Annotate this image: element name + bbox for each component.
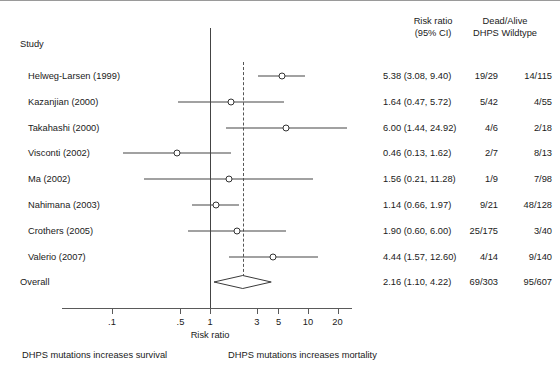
footnote-left: DHPS mutations increases survival xyxy=(22,350,167,360)
x-axis-tick xyxy=(257,309,258,314)
point-estimate-marker xyxy=(225,176,232,183)
x-axis-tick-label: .5 xyxy=(177,317,185,327)
point-estimate-marker xyxy=(228,98,235,105)
row-events-wildtype: 14/115 xyxy=(502,71,552,81)
point-estimate-marker xyxy=(212,202,219,209)
row-events-dhps: 2/7 xyxy=(452,148,498,158)
x-axis-tick xyxy=(308,309,309,314)
x-axis-tick xyxy=(278,309,279,314)
footnote-right: DHPS mutations increases mortality xyxy=(228,350,377,360)
row-label-study: Valerio (2007) xyxy=(28,252,86,262)
row-label-study: Ma (2002) xyxy=(28,174,70,184)
point-estimate-marker xyxy=(173,150,180,157)
x-axis-tick-label: .1 xyxy=(108,317,116,327)
x-axis-tick xyxy=(210,309,211,314)
forest-plot: Risk ratio (95% CI) Dead/Alive DHPS Wild… xyxy=(0,0,560,371)
row-label-study: Nahimana (2003) xyxy=(28,200,100,210)
row-events-wildtype: 8/13 xyxy=(502,148,552,158)
null-effect-line xyxy=(210,28,211,308)
row-events-wildtype: 4/55 xyxy=(502,97,552,107)
row-events-wildtype: 3/40 xyxy=(502,226,552,236)
row-events-dhps: 19/29 xyxy=(452,71,498,81)
column-header-counts-line1: Dead/Alive xyxy=(455,16,555,28)
row-label-study: Takahashi (2000) xyxy=(28,123,99,133)
x-axis-tick-label: 1 xyxy=(207,317,212,327)
point-estimate-marker xyxy=(270,253,277,260)
x-axis-tick-label: 20 xyxy=(332,317,342,327)
x-axis-tick xyxy=(112,309,113,314)
x-axis-tick xyxy=(180,309,181,314)
row-label-overall: Overall xyxy=(20,277,49,287)
point-estimate-marker xyxy=(283,124,290,131)
summary-effect-dashed-line xyxy=(243,62,244,282)
row-events-wildtype: 48/128 xyxy=(502,200,552,210)
column-header-counts-line2: DHPS Wildtype xyxy=(455,28,555,40)
row-events-dhps: 25/175 xyxy=(452,226,498,236)
row-events-wildtype: 7/98 xyxy=(502,174,552,184)
column-header-counts: Dead/Alive DHPS Wildtype xyxy=(455,16,555,39)
row-events-dhps: 4/6 xyxy=(452,123,498,133)
point-estimate-marker xyxy=(234,227,241,234)
overall-diamond xyxy=(213,275,272,290)
row-events-wildtype: 2/18 xyxy=(502,123,552,133)
row-events-wildtype: 95/607 xyxy=(502,277,552,287)
x-axis-tick xyxy=(338,309,339,314)
x-axis-tick-label: 10 xyxy=(303,317,313,327)
top-rule xyxy=(0,0,560,1)
row-events-dhps: 69/303 xyxy=(452,277,498,287)
row-events-dhps: 9/21 xyxy=(452,200,498,210)
row-label-study: Helweg-Larsen (1999) xyxy=(28,71,120,81)
point-estimate-marker xyxy=(278,73,285,80)
row-events-wildtype: 9/140 xyxy=(502,252,552,262)
x-axis-tick-label: 5 xyxy=(276,317,281,327)
row-events-dhps: 1/9 xyxy=(452,174,498,184)
column-header-study: Study xyxy=(20,39,44,49)
row-label-study: Kazanjian (2000) xyxy=(28,97,98,107)
x-axis-tick-label: 3 xyxy=(254,317,259,327)
row-events-dhps: 4/14 xyxy=(452,252,498,262)
row-events-dhps: 5/42 xyxy=(452,97,498,107)
row-label-study: Crothers (2005) xyxy=(28,226,93,236)
row-label-study: Visconti (2002) xyxy=(28,148,90,158)
x-axis-title: Risk ratio xyxy=(191,330,230,340)
